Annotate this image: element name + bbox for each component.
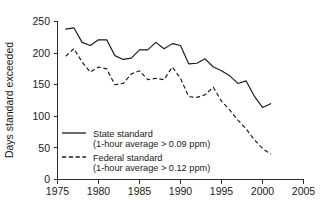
x-tick-label: 1985 [128,185,152,197]
series-line-state-standard [66,28,271,108]
x-tick-label: 1975 [46,185,70,197]
x-axis-ticks [58,180,304,184]
legend-entry-title: State standard [93,129,153,139]
line-chart-canvas: 0 50 100 150 200 250 1975 1980 1985 1990… [0,0,321,213]
legend-entry-subtitle: (1-hour average > 0.09 ppm) [93,139,210,149]
y-tick-label: 50 [38,142,50,154]
x-tick-label: 2005 [292,185,316,197]
chart-figure: 0 50 100 150 200 250 1975 1980 1985 1990… [0,0,321,213]
y-tick-label: 0 [44,173,50,185]
y-axis-title: Days standard exceeded [3,42,15,158]
x-tick-label: 1980 [87,185,111,197]
y-tick-label: 100 [32,110,50,122]
chart-legend: State standard (1-hour average > 0.09 pp… [62,129,210,173]
legend-entry-subtitle: (1-hour average > 0.12 ppm) [93,163,210,173]
y-axis-ticks [54,22,58,180]
x-tick-label: 1995 [210,185,234,197]
legend-entry-title: Federal standard [93,153,162,163]
y-axis-tick-labels: 0 50 100 150 200 250 [32,15,50,185]
x-tick-label: 2000 [251,185,275,197]
y-tick-label: 200 [32,47,50,59]
y-tick-label: 150 [32,78,50,90]
y-tick-label: 250 [32,15,50,27]
x-axis-tick-labels: 1975 1980 1985 1990 1995 2000 2005 [46,185,316,197]
x-tick-label: 1990 [169,185,193,197]
